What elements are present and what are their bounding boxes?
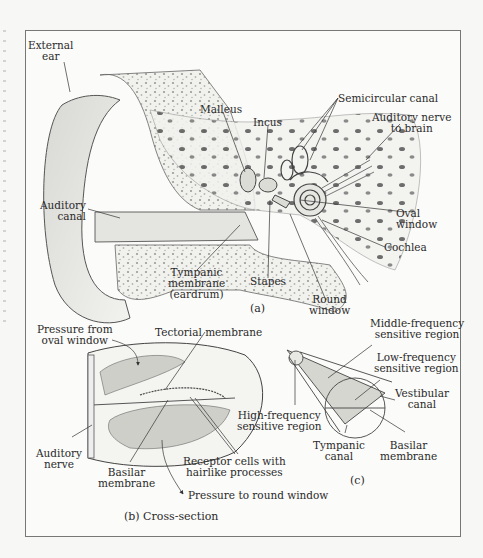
- cochlea-cross-section: [88, 343, 263, 467]
- label-line: (eardrum): [168, 289, 225, 300]
- caption-panel-a: (a): [250, 302, 265, 315]
- label-low-frequency: Low-frequency sensitive region: [374, 352, 459, 374]
- label-receptor-cells: Receptor cells with hairlike processes: [183, 456, 286, 478]
- label-stapes: Stapes: [250, 276, 286, 287]
- label-line: window: [309, 305, 350, 316]
- label-line: window: [396, 219, 437, 230]
- label-auditory-nerve: Auditory nerve: [36, 448, 82, 470]
- label-line: to brain: [372, 123, 451, 134]
- label-round-window: Round window: [309, 294, 350, 316]
- label-line: sensitive region: [237, 421, 322, 432]
- label-line: canal: [313, 451, 365, 462]
- label-line: ear: [28, 51, 73, 62]
- caption-panel-b: (b) Cross-section: [124, 510, 218, 523]
- label-auditory-nerve-to-brain: Auditory nerve to brain: [372, 112, 451, 134]
- label-line: membrane: [380, 451, 437, 462]
- label-tympanic-membrane: Tympanic membrane (eardrum): [168, 267, 225, 300]
- label-basilar-membrane-b: Basilar membrane: [98, 467, 155, 489]
- label-line: sensitive region: [370, 329, 464, 340]
- label-line: hairlike processes: [183, 467, 286, 478]
- label-middle-frequency: Middle-frequency sensitive region: [370, 318, 464, 340]
- label-pressure-from-oval-window: Pressure from oval window: [37, 324, 113, 346]
- label-high-frequency: High-frequency sensitive region: [237, 410, 322, 432]
- label-cochlea: Cochlea: [384, 242, 427, 253]
- label-basilar-membrane-c: Basilar membrane: [380, 440, 437, 462]
- label-incus: Incus: [253, 117, 282, 128]
- label-semicircular-canal: Semicircular canal: [338, 93, 438, 104]
- label-tympanic-canal: Tympanic canal: [313, 440, 365, 462]
- label-external-ear: External ear: [28, 40, 73, 62]
- label-line: canal: [40, 211, 86, 222]
- caption-panel-c: (c): [350, 474, 365, 487]
- label-oval-window: Oval window: [396, 208, 437, 230]
- label-malleus: Malleus: [200, 104, 242, 115]
- label-line: sensitive region: [374, 363, 459, 374]
- label-tectorial-membrane: Tectorial membrane: [155, 327, 262, 338]
- label-line: nerve: [36, 459, 82, 470]
- label-line: membrane: [98, 478, 155, 489]
- label-auditory-canal: Auditory canal: [40, 200, 86, 222]
- label-line: oval window: [37, 335, 113, 346]
- auditory-canal-shape: [95, 212, 258, 242]
- label-pressure-to-round-window: Pressure to round window: [188, 490, 328, 501]
- label-vestibular-canal: Vestibular canal: [395, 388, 449, 410]
- label-line: canal: [395, 399, 449, 410]
